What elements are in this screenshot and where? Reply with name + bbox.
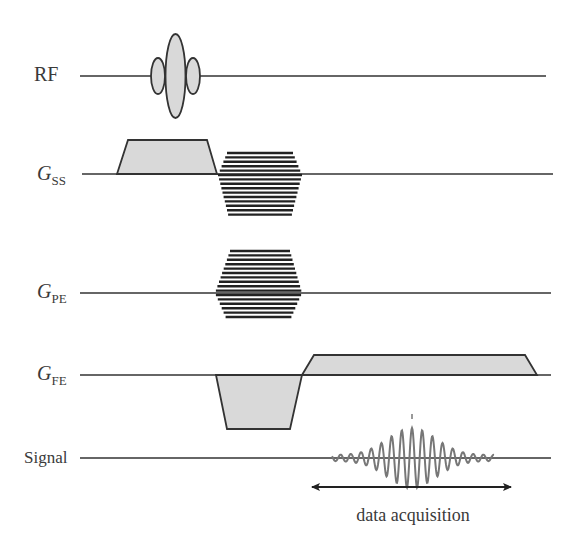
row-gfe: GFE (37, 355, 551, 429)
rf-side-lobe-left (151, 58, 165, 94)
gss-rephase-stripes (218, 153, 302, 215)
rf-main-lobe (166, 34, 186, 118)
row-rf: RF (34, 34, 546, 118)
row-label-gpe: GPE (37, 280, 67, 306)
pulse-sequence-diagram: RF GSS GPE GFE Signal (0, 0, 577, 545)
gpe-phase-encode-stripes (216, 251, 301, 317)
row-gpe: GPE (37, 251, 551, 317)
row-label-rf: RF (34, 63, 58, 85)
data-acquisition-label: data acquisition (356, 505, 469, 525)
data-acquisition-annotation: data acquisition (312, 487, 511, 525)
gfe-dephase-lobe (216, 375, 302, 429)
gss-slice-select-lobe (117, 140, 217, 174)
rf-side-lobe-right (186, 58, 200, 94)
row-gss: GSS (37, 140, 553, 215)
row-label-signal: Signal (24, 448, 68, 467)
row-label-gfe: GFE (37, 362, 67, 388)
row-label-gss: GSS (37, 162, 66, 188)
gfe-readout-lobe (302, 355, 537, 375)
